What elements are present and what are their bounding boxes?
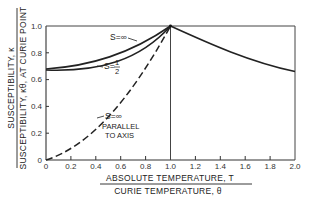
x-label-denominator: CURIE TEMPERATURE, θ	[114, 186, 222, 196]
x-tick: 0.2	[65, 162, 77, 171]
y-tick: 0.4	[31, 102, 43, 111]
y-tick: 0.8	[31, 49, 43, 58]
x-tick: 1.0	[165, 162, 177, 171]
x-tick: 0.8	[140, 162, 152, 171]
annotation-parallel-s: S=∞	[105, 111, 122, 121]
annotation-s-infinity: S=∞	[110, 32, 127, 42]
y-label-denominator: SUSCEPTIBILITY, κθ, AT CURIE POINT	[18, 6, 28, 169]
susceptibility-chart: 0 0.2 0.4 0.6 0.8 1.0 0 0.2 0.4 0.6 0.8 …	[0, 0, 309, 203]
curve-above-curie	[171, 26, 296, 72]
annotation-parallel-line3: TO AXIS	[105, 131, 134, 140]
curie-point-marker	[169, 25, 172, 28]
x-tick: 1.6	[240, 162, 252, 171]
x-label-numerator: ABSOLUTE TEMPERATURE, T	[106, 173, 234, 183]
x-tick: 2.0	[289, 162, 301, 171]
y-axis-label: SUSCEPTIBILITY, κ SUSCEPTIBILITY, κθ, AT…	[6, 6, 28, 169]
annotation-parallel-line2: PARALLEL	[102, 122, 139, 131]
x-tick: 1.8	[265, 162, 277, 171]
x-axis-ticks: 0 0.2 0.4 0.6 0.8 1.0 1.2 1.4 1.6 1.8 2.…	[44, 156, 301, 171]
x-tick: 1.4	[215, 162, 227, 171]
annotation-s-half-den: 2	[115, 67, 119, 76]
annotation-s-half: S=	[104, 61, 115, 71]
y-label-numerator: SUSCEPTIBILITY, κ	[6, 47, 16, 129]
x-tick: 0.6	[115, 162, 127, 171]
y-tick: 0	[38, 156, 43, 165]
x-tick: 1.2	[190, 162, 202, 171]
y-tick: 0.2	[31, 129, 43, 138]
y-tick: 0.6	[31, 75, 43, 84]
y-tick: 1.0	[31, 22, 43, 31]
x-tick: 0.4	[90, 162, 102, 171]
annotation-s-half-num: 1	[115, 58, 119, 67]
x-axis-label: ABSOLUTE TEMPERATURE, T CURIE TEMPERATUR…	[100, 173, 252, 196]
x-tick: 0	[44, 162, 49, 171]
